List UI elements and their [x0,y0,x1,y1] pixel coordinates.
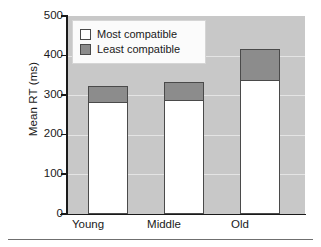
y-tick-label-300: 300 [33,89,63,101]
legend-swatch-most-compatible [80,29,91,40]
figure-container: Mean RT (ms) 500 400 300 200 100 0 [0,0,321,247]
bar-young-least-compatible [88,86,128,103]
y-tick-label-200: 200 [33,128,63,140]
legend-item-most-compatible: Most compatible [80,28,197,42]
bar-old [240,49,280,214]
bar-middle-least-compatible [164,82,204,101]
legend-item-least-compatible: Least compatible [80,42,197,56]
legend-swatch-least-compatible [80,44,91,55]
bottom-divider [8,239,313,240]
legend-label-most-compatible: Most compatible [97,29,177,40]
bar-old-least-compatible [240,49,280,81]
bar-young-most-compatible [88,102,128,214]
y-tick-label-400: 400 [33,49,63,61]
y-tick-label-100: 100 [33,168,63,180]
bar-middle [164,82,204,214]
plot-area: Most compatible Least compatible [67,16,305,214]
legend-label-least-compatible: Least compatible [97,44,180,55]
legend: Most compatible Least compatible [72,20,206,64]
y-axis-tick-labels: 500 400 300 200 100 0 [30,0,63,247]
bar-old-most-compatible [240,80,280,214]
bar-young [88,86,128,214]
y-tick-label-0: 0 [33,208,63,220]
y-axis-line [66,15,68,215]
x-tick-label-old: Old [220,218,260,230]
x-tick-label-young: Young [68,218,108,230]
bar-middle-most-compatible [164,100,204,214]
x-axis-line [60,214,306,216]
y-tick-label-500: 500 [33,10,63,22]
x-tick-label-middle: Middle [144,218,184,230]
